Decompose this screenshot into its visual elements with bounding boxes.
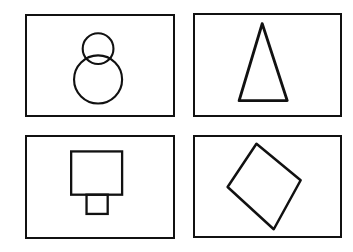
square-with-stem-icon bbox=[27, 137, 173, 237]
panel-bottom-left bbox=[25, 135, 175, 239]
triangle-icon bbox=[195, 15, 340, 115]
panel-top-right bbox=[193, 13, 342, 117]
panel-bottom-right bbox=[193, 135, 342, 238]
panel-top-left bbox=[25, 14, 175, 117]
figure-eight-icon bbox=[27, 16, 173, 115]
diamond-icon bbox=[195, 137, 340, 236]
